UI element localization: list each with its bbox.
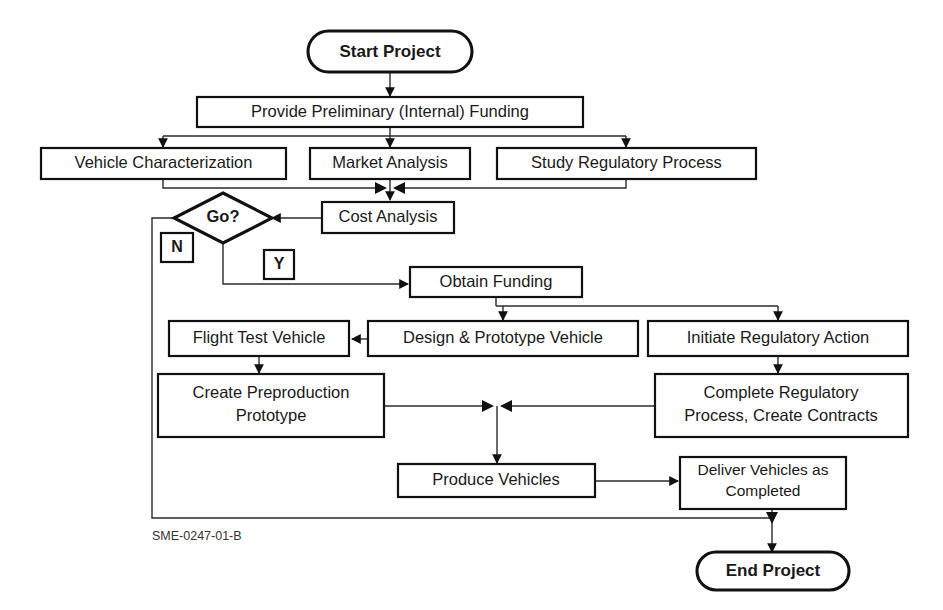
create-preproduction-prototype-label-line2: Prototype [236, 406, 307, 424]
node-design-prototype-vehicle[interactable]: Design & Prototype Vehicle [368, 321, 638, 356]
yes-badge-label: Y [274, 255, 285, 272]
prelim-funding-label: Provide Preliminary (Internal) Funding [251, 102, 529, 120]
node-end-project[interactable]: End Project [697, 552, 849, 590]
go-decision-label: Go? [207, 207, 240, 225]
merge-arrow-left-2 [482, 400, 494, 412]
diagram-caption: SME-0247-01-B [152, 529, 242, 543]
node-deliver-vehicles[interactable]: Deliver Vehicles as Completed [680, 457, 846, 509]
create-preproduction-prototype-label-line1: Create Preproduction [193, 383, 350, 401]
badge-yes: Y [264, 250, 294, 279]
node-study-regulatory-process[interactable]: Study Regulatory Process [497, 148, 756, 179]
deliver-vehicles-label-line1: Deliver Vehicles as [698, 461, 829, 478]
design-prototype-vehicle-label: Design & Prototype Vehicle [403, 328, 603, 346]
study-regulatory-process-label: Study Regulatory Process [531, 153, 722, 171]
node-flight-test-vehicle[interactable]: Flight Test Vehicle [169, 321, 349, 356]
initiate-regulatory-action-label: Initiate Regulatory Action [687, 328, 870, 346]
start-project-label: Start Project [339, 42, 440, 61]
node-produce-vehicles[interactable]: Produce Vehicles [398, 464, 595, 497]
deliver-vehicles-label-line2: Completed [726, 482, 801, 499]
end-project-label: End Project [726, 561, 821, 580]
cost-analysis-label: Cost Analysis [338, 207, 437, 225]
connector-yes-branch [223, 243, 408, 284]
flowchart-svg: Start Project Provide Preliminary (Inter… [0, 0, 943, 610]
badge-no: N [161, 233, 193, 262]
node-prelim-funding[interactable]: Provide Preliminary (Internal) Funding [197, 97, 583, 127]
merge-arrow-right-1 [393, 182, 405, 194]
complete-regulatory-process-label-line1: Complete Regulatory [704, 383, 860, 401]
market-analysis-label: Market Analysis [332, 153, 448, 171]
produce-vehicles-label: Produce Vehicles [432, 470, 560, 488]
node-vehicle-characterization[interactable]: Vehicle Characterization [41, 148, 286, 179]
flight-test-vehicle-label: Flight Test Vehicle [193, 328, 326, 346]
node-complete-regulatory-process[interactable]: Complete Regulatory Process, Create Cont… [655, 374, 908, 437]
node-market-analysis[interactable]: Market Analysis [310, 148, 470, 179]
vehicle-characterization-label: Vehicle Characterization [75, 153, 253, 171]
node-cost-analysis[interactable]: Cost Analysis [322, 202, 454, 233]
node-start-project[interactable]: Start Project [308, 31, 472, 72]
node-initiate-regulatory-action[interactable]: Initiate Regulatory Action [648, 321, 908, 356]
node-create-preproduction-prototype[interactable]: Create Preproduction Prototype [158, 374, 384, 437]
flowchart-canvas: Start Project Provide Preliminary (Inter… [0, 0, 943, 610]
complete-regulatory-process-label-line2: Process, Create Contracts [684, 406, 878, 424]
merge-arrow-left-1 [375, 182, 387, 194]
merge-arrow-right-2 [500, 400, 512, 412]
node-obtain-funding[interactable]: Obtain Funding [410, 267, 582, 297]
obtain-funding-label: Obtain Funding [440, 272, 553, 290]
no-badge-label: N [171, 238, 183, 255]
